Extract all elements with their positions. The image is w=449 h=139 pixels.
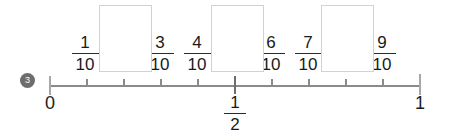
fraction-bar [224,113,246,114]
fraction-bar [72,53,99,54]
endpoint-label-zero: 0 [40,94,60,112]
tick-8-10 [345,79,347,86]
answer-box-8-10[interactable] [321,5,374,72]
worksheet-number-line-problem: 3 1 10 3 10 4 10 6 10 7 10 9 10 [0,0,449,139]
tick-7-10 [308,79,310,86]
tick-1-10 [86,79,88,86]
tick-9-10 [382,79,384,86]
tick-6-10 [271,79,273,86]
midpoint-label-one-half: 1 2 [216,94,254,134]
tick-2-10 [123,79,125,86]
fraction-denominator: 2 [216,115,254,134]
tick-1 [419,74,421,95]
fraction-bar [295,53,322,54]
tick-5-10 [234,76,236,94]
tick-4-10 [197,79,199,86]
answer-box-5-10[interactable] [211,5,264,72]
answer-box-2-10[interactable] [99,5,152,72]
tick-3-10 [160,79,162,86]
problem-number-badge: 3 [20,73,35,88]
fraction-bar [184,53,211,54]
fraction-numerator: 1 [216,94,254,112]
endpoint-label-one: 1 [410,94,430,112]
